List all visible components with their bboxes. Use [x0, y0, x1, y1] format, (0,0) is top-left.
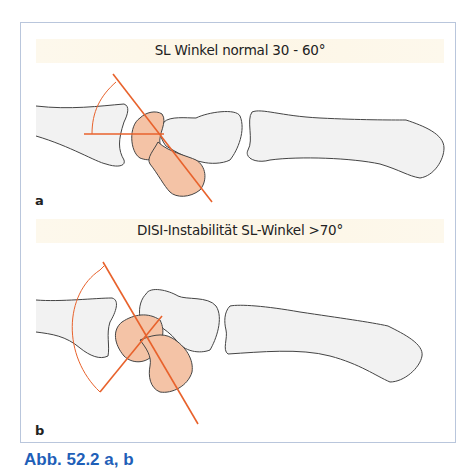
figure-caption: Abb. 52.2 a, b: [24, 450, 134, 470]
metacarpal-bone-a: [247, 111, 444, 178]
radius-bone-a: [36, 104, 128, 166]
radius-bone-b: [36, 298, 116, 358]
panel-a-drawing: [36, 74, 444, 202]
panel-b-drawing: [36, 262, 422, 424]
arc-tick-top-b: [100, 266, 104, 270]
metacarpal-bone-b: [225, 305, 422, 382]
